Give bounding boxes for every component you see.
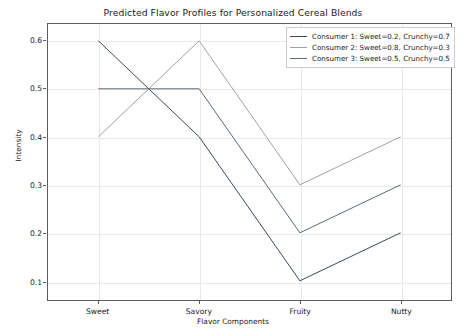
chart-title: Predicted Flavor Profiles for Personaliz… [0, 7, 466, 18]
x-axis-tick-mark [401, 301, 402, 304]
x-axis-tick-mark [98, 301, 99, 304]
y-axis-tick-mark [43, 233, 46, 234]
y-axis-tick-marks [0, 23, 47, 301]
legend-item: Consumer 2: Sweet=0.8, Crunchy=0.3 [290, 42, 450, 53]
chart-figure: Predicted Flavor Profiles for Personaliz… [0, 0, 466, 335]
x-axis-tick-mark [300, 301, 301, 304]
x-axis-tick-label: Fruity [265, 307, 335, 316]
legend-item: Consumer 1: Sweet=0.2, Crunchy=0.7 [290, 31, 450, 42]
x-axis-tick-label: Sweet [63, 307, 133, 316]
y-axis-tick-mark [43, 282, 46, 283]
x-axis-label: Flavor Components [0, 317, 466, 326]
y-axis-tick-mark [43, 137, 46, 138]
x-axis-tick-mark [199, 301, 200, 304]
legend-line-swatch [290, 58, 307, 59]
legend-label: Consumer 2: Sweet=0.8, Crunchy=0.3 [312, 43, 450, 52]
y-axis-tick-mark [43, 40, 46, 41]
y-axis-tick-mark [43, 185, 46, 186]
legend-label: Consumer 3: Sweet=0.5, Crunchy=0.5 [312, 54, 450, 63]
x-axis-tick-label: Savory [164, 307, 234, 316]
series-line [98, 89, 400, 233]
legend-label: Consumer 1: Sweet=0.2, Crunchy=0.7 [312, 32, 450, 41]
legend-line-swatch [290, 36, 307, 37]
chart-legend: Consumer 1: Sweet=0.2, Crunchy=0.7Consum… [286, 27, 455, 68]
legend-item: Consumer 3: Sweet=0.5, Crunchy=0.5 [290, 53, 450, 64]
x-axis-tick-label: Nutty [366, 307, 436, 316]
y-axis-tick-mark [43, 88, 46, 89]
legend-line-swatch [290, 47, 307, 48]
